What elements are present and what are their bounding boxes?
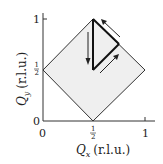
y-tick-label-half: 1 2 [34,61,39,77]
brillouin-zone-diagram: 1 0 1 2 0 1 1 2 Qx(r.l.u.) Qy(r.l.u.) [0,0,163,164]
svg-text:1: 1 [91,125,95,133]
x-axis-label: Qx(r.l.u.) [76,143,130,159]
y-axis-label: Qy(r.l.u.) [15,52,31,106]
svg-text:2: 2 [35,69,39,77]
y-tick-label-1: 1 [33,13,40,26]
x-tick-label-0: 0 [39,127,46,140]
x-tick-label-half: 1 2 [90,125,96,141]
x-tick-label-1: 1 [142,127,149,140]
svg-text:2: 2 [91,133,95,141]
svg-text:1: 1 [35,61,39,69]
